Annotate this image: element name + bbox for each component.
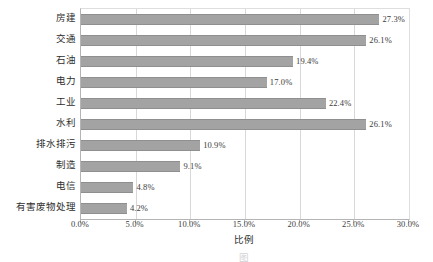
bar-value-label: 10.9%: [203, 139, 225, 152]
x-tick-label: 15.0%: [221, 219, 267, 230]
category-label: 制造: [0, 159, 76, 172]
bar-value-label: 27.3%: [382, 13, 404, 26]
bar-value-label: 22.4%: [329, 97, 351, 110]
bar-row: 17.0%: [81, 72, 409, 93]
x-tick-label: 0.0%: [57, 219, 103, 230]
x-tick-label: 10.0%: [166, 219, 212, 230]
category-label: 电力: [0, 75, 76, 88]
category-label: 电信: [0, 180, 76, 193]
bar-value-label: 4.2%: [130, 202, 148, 215]
figure-caption: 图: [80, 253, 408, 262]
bar: [81, 140, 200, 151]
category-label: 房建: [0, 12, 76, 25]
category-label: 石油: [0, 54, 76, 67]
bar-row: 10.9%: [81, 135, 409, 156]
bar-row: 26.1%: [81, 114, 409, 135]
bar-value-label: 26.1%: [369, 34, 391, 47]
x-tick-label: 25.0%: [330, 219, 376, 230]
x-tick-label: 5.0%: [112, 219, 158, 230]
bar-value-label: 9.1%: [183, 160, 201, 173]
bar: [81, 182, 133, 193]
category-label: 水利: [0, 117, 76, 130]
bar: [81, 35, 366, 46]
bar-row: 22.4%: [81, 93, 409, 114]
bar: [81, 56, 293, 67]
bar: [81, 14, 379, 25]
category-label: 排水排污: [0, 138, 76, 151]
bar-row: 4.2%: [81, 198, 409, 219]
bar: [81, 119, 366, 130]
category-label: 交通: [0, 33, 76, 46]
bar: [81, 77, 267, 88]
bar: [81, 203, 127, 214]
bar: [81, 98, 326, 109]
bar-value-label: 4.8%: [136, 181, 154, 194]
bar-chart: 房建交通石油电力工业水利排水排污制造电信有害废物处理 27.3%26.1%19.…: [0, 0, 433, 262]
bar-row: 27.3%: [81, 9, 409, 30]
bar-value-label: 26.1%: [369, 118, 391, 131]
bar-row: 19.4%: [81, 51, 409, 72]
bar-value-label: 17.0%: [270, 76, 292, 89]
bar: [81, 161, 180, 172]
bar-value-label: 19.4%: [296, 55, 318, 68]
x-tick-label: 20.0%: [276, 219, 322, 230]
bar-row: 4.8%: [81, 177, 409, 198]
plot-area: 27.3%26.1%19.4%17.0%22.4%26.1%10.9%9.1%4…: [80, 8, 410, 220]
bar-row: 26.1%: [81, 30, 409, 51]
x-axis-title: 比例: [80, 234, 408, 247]
bar-row: 9.1%: [81, 156, 409, 177]
x-tick-label: 30.0%: [385, 219, 431, 230]
category-label: 工业: [0, 96, 76, 109]
category-label: 有害废物处理: [0, 201, 76, 214]
